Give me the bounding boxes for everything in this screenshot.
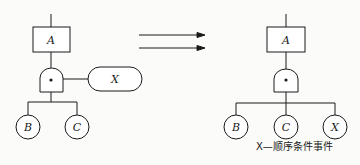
left-label-a: A: [46, 34, 55, 47]
right-label-a: A: [281, 34, 290, 47]
fault-tree-diagram: A X B C A B C X X—顺序条件事件: [0, 0, 360, 165]
right-label-c: C: [282, 121, 291, 134]
right-gate-dot-icon: [284, 78, 287, 81]
left-gate-dot-icon: [49, 78, 52, 81]
right-label-b: B: [231, 121, 240, 134]
left-label-b: B: [23, 121, 32, 134]
caption: X—顺序条件事件: [256, 140, 333, 152]
left-label-x: X: [110, 73, 120, 86]
left-label-c: C: [73, 121, 82, 134]
double-arrow-right-icon: [139, 33, 205, 51]
right-label-x: X: [330, 121, 340, 134]
